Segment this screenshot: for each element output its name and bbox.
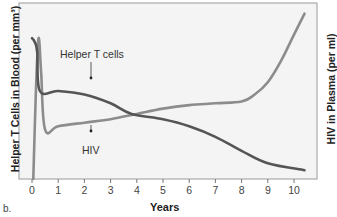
- x-tick-label: 2: [74, 184, 94, 196]
- x-tick-label: 1: [48, 184, 68, 196]
- panel-label: b.: [3, 203, 11, 214]
- x-tick-label: 8: [232, 184, 252, 196]
- tcell-annotation-dot: [90, 77, 93, 80]
- x-tick-label: 7: [205, 184, 225, 196]
- annotation-helper-t-cells: Helper T cells: [60, 48, 124, 60]
- x-axis-label: Years: [150, 201, 179, 213]
- x-tick-label: 6: [179, 184, 199, 196]
- x-axis-ticks: [32, 179, 294, 183]
- x-tick-label: 4: [127, 184, 147, 196]
- hiv-annotation-dot: [90, 130, 93, 133]
- x-tick-label: 0: [22, 184, 42, 196]
- x-tick-label: 10: [284, 184, 304, 196]
- annotation-hiv: HIV: [82, 144, 100, 156]
- y-axis-label-left: Helper T Cells in Blood (per mm³): [9, 0, 21, 184]
- x-tick-label: 5: [153, 184, 173, 196]
- x-tick-label: 9: [258, 184, 278, 196]
- x-tick-label: 3: [101, 184, 121, 196]
- y-axis-label-right: HIV in Plasma (per ml): [325, 0, 337, 184]
